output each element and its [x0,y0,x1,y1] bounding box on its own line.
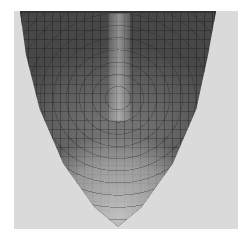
root-outline [20,11,216,229]
micrograph-frame [14,11,238,229]
